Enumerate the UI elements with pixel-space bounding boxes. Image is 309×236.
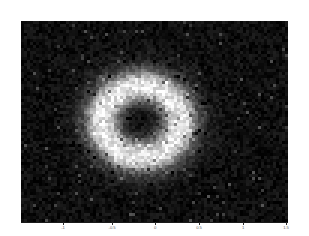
x-axis-tick-label: 0.5 — [196, 225, 202, 231]
x-axis-tick-label: -1 — [61, 225, 65, 231]
x-axis-tick-label: 0 — [154, 225, 156, 231]
figure-canvas: -1-0.500.511.5 — [0, 0, 309, 236]
density-heatmap-canvas — [21, 21, 288, 222]
x-axis-tick-label: 1 — [242, 225, 244, 231]
x-axis-tick-label: -0.5 — [109, 225, 116, 231]
density-plot-area — [21, 21, 288, 222]
x-axis-tick-label: 1.5 — [283, 225, 289, 231]
